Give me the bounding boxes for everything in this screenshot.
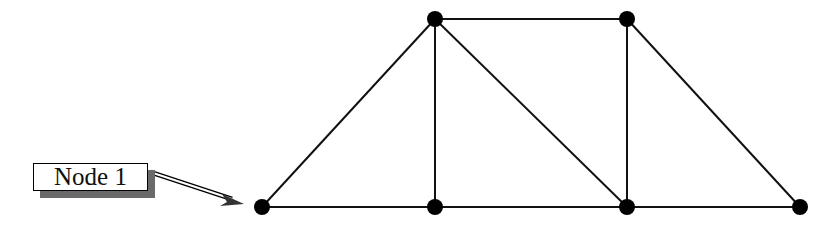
truss-member [435, 19, 627, 207]
truss-member [262, 19, 435, 207]
arrow-icon [150, 172, 244, 206]
truss-node-6 [619, 11, 635, 27]
truss-node-3 [619, 199, 635, 215]
truss-node-1 [254, 199, 270, 215]
truss-node-5 [427, 11, 443, 27]
truss-member [627, 19, 800, 207]
truss-node-2 [427, 199, 443, 215]
node-label: Node 1 [33, 163, 148, 191]
truss-node-4 [792, 199, 808, 215]
